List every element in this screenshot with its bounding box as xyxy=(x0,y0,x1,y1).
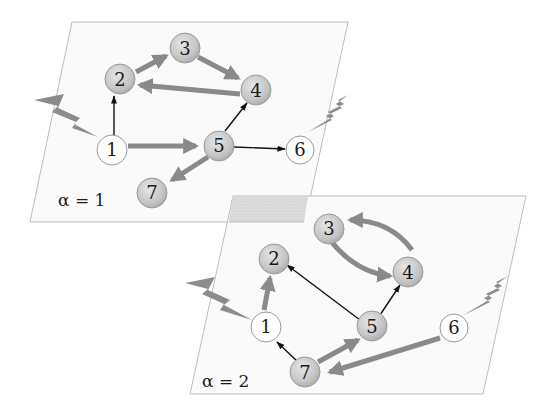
svg-text:3: 3 xyxy=(323,218,334,239)
node-2[interactable]: 2 xyxy=(259,244,289,274)
svg-text:7: 7 xyxy=(299,362,310,383)
node-7[interactable]: 7 xyxy=(137,178,167,208)
layer-2: 1 2 3 4 5 6 7 α = 2 xyxy=(185,196,526,394)
svg-text:5: 5 xyxy=(366,316,377,337)
node-4[interactable]: 4 xyxy=(393,257,423,287)
layer-2-label: α = 2 xyxy=(202,371,249,391)
multiplex-diagram: 1 2 3 4 5 6 7 α = 1 xyxy=(0,0,551,415)
svg-text:1: 1 xyxy=(260,316,271,337)
node-4[interactable]: 4 xyxy=(241,75,271,105)
node-1[interactable]: 1 xyxy=(251,312,281,342)
node-5[interactable]: 5 xyxy=(204,131,234,161)
svg-text:6: 6 xyxy=(294,139,305,160)
layer-overlap xyxy=(229,196,308,222)
svg-text:2: 2 xyxy=(268,248,279,269)
svg-text:6: 6 xyxy=(448,317,459,338)
layer-1: 1 2 3 4 5 6 7 α = 1 xyxy=(30,22,348,222)
node-6[interactable]: 6 xyxy=(440,314,468,342)
node-5[interactable]: 5 xyxy=(357,311,387,341)
node-2[interactable]: 2 xyxy=(105,64,135,94)
svg-text:4: 4 xyxy=(402,262,413,283)
layer-1-label: α = 1 xyxy=(58,190,105,210)
node-1[interactable]: 1 xyxy=(97,135,127,165)
svg-text:3: 3 xyxy=(179,38,190,59)
svg-text:7: 7 xyxy=(146,182,157,203)
svg-text:5: 5 xyxy=(213,135,224,156)
svg-text:1: 1 xyxy=(106,139,117,160)
node-7[interactable]: 7 xyxy=(290,357,320,387)
node-3[interactable]: 3 xyxy=(170,33,200,63)
node-6[interactable]: 6 xyxy=(286,136,314,164)
svg-text:2: 2 xyxy=(114,69,125,90)
svg-text:4: 4 xyxy=(250,80,261,101)
node-3[interactable]: 3 xyxy=(314,214,344,244)
